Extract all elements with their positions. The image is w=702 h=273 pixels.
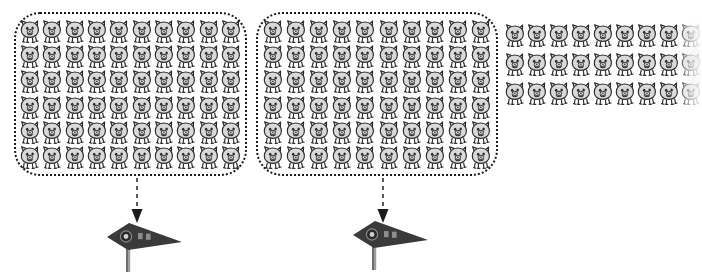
- pig-icon: [308, 19, 330, 43]
- pig-icon: [636, 23, 658, 47]
- pig-icon: [592, 23, 614, 47]
- pig-icon: [175, 69, 197, 93]
- pig-icon: [86, 19, 108, 43]
- pig-icon: [614, 81, 636, 105]
- pig-icon: [220, 145, 242, 169]
- pig-icon: [64, 19, 86, 43]
- pig-icon: [41, 19, 63, 43]
- pig-icon: [504, 52, 526, 76]
- pig-icon: [153, 44, 175, 68]
- pig-icon: [447, 69, 469, 93]
- pig-icon: [636, 52, 658, 76]
- pig-icon: [108, 95, 130, 119]
- pig-icon: [308, 145, 330, 169]
- pig-icon: [680, 81, 702, 105]
- pig-icon: [262, 120, 284, 144]
- pig-icon: [447, 145, 469, 169]
- pig-icon: [658, 23, 680, 47]
- pig-icon: [424, 19, 446, 43]
- pig-icon: [354, 145, 376, 169]
- pig-icon: [354, 19, 376, 43]
- pig-icon: [131, 44, 153, 68]
- pig-icon: [153, 95, 175, 119]
- pig-icon: [131, 69, 153, 93]
- pig-icon: [285, 19, 307, 43]
- pig-icon: [470, 95, 492, 119]
- pig-icon: [153, 69, 175, 93]
- pig-icon: [470, 145, 492, 169]
- pig-icon: [220, 44, 242, 68]
- pig-icon: [401, 69, 423, 93]
- pig-icon: [354, 95, 376, 119]
- pig-icon: [331, 69, 353, 93]
- pig-icon: [198, 95, 220, 119]
- pig-icon: [285, 120, 307, 144]
- pig-icon: [64, 69, 86, 93]
- pig-icon: [378, 44, 400, 68]
- pig-icon: [308, 120, 330, 144]
- pig-icon: [262, 19, 284, 43]
- pig-icon: [86, 69, 108, 93]
- pig-icon: [470, 69, 492, 93]
- pig-icon: [285, 69, 307, 93]
- pig-icon: [175, 120, 197, 144]
- pig-icon: [19, 95, 41, 119]
- dashed-arrow-down-icon-1: [130, 178, 144, 224]
- pig-icon: [401, 44, 423, 68]
- pig-icon: [470, 44, 492, 68]
- pig-icon: [108, 44, 130, 68]
- pig-icon: [285, 44, 307, 68]
- pig-icon: [401, 19, 423, 43]
- pig-icon: [401, 145, 423, 169]
- pig-icon: [504, 23, 526, 47]
- pig-icon: [19, 44, 41, 68]
- pig-icon: [64, 95, 86, 119]
- circle-badge-icon: [120, 231, 131, 242]
- pig-icon: [86, 145, 108, 169]
- pig-icon: [198, 69, 220, 93]
- pig-icon: [424, 95, 446, 119]
- pig-icon: [108, 120, 130, 144]
- pig-icon: [153, 19, 175, 43]
- pig-icon: [108, 145, 130, 169]
- pig-icon: [614, 23, 636, 47]
- pig-icon: [592, 52, 614, 76]
- pig-icon: [41, 44, 63, 68]
- pig-icon: [331, 95, 353, 119]
- pig-icon: [41, 69, 63, 93]
- pig-icon: [198, 145, 220, 169]
- pig-icon: [331, 120, 353, 144]
- pig-icon: [19, 145, 41, 169]
- pig-icon: [526, 52, 548, 76]
- pig-icon: [636, 81, 658, 105]
- pig-icon: [658, 52, 680, 76]
- pig-icon: [504, 81, 526, 105]
- icon-grid-remainder: [504, 20, 702, 108]
- pig-icon: [331, 44, 353, 68]
- pig-icon: [64, 145, 86, 169]
- pig-icon: [526, 23, 548, 47]
- pig-icon: [447, 120, 469, 144]
- pennant-flag-marker-2[interactable]: 方块: [348, 218, 434, 270]
- pig-icon: [548, 52, 570, 76]
- pig-icon: [131, 19, 153, 43]
- pig-icon: [198, 44, 220, 68]
- pig-icon: [285, 95, 307, 119]
- icon-grid-group-2: [261, 18, 493, 170]
- pig-icon: [262, 95, 284, 119]
- pig-icon: [680, 52, 702, 76]
- pig-icon: [175, 19, 197, 43]
- pig-icon: [354, 44, 376, 68]
- pig-icon: [64, 44, 86, 68]
- pig-icon: [86, 120, 108, 144]
- pig-icon: [470, 120, 492, 144]
- pig-icon: [592, 81, 614, 105]
- pig-icon: [41, 120, 63, 144]
- pig-icon: [447, 44, 469, 68]
- pig-icon: [424, 69, 446, 93]
- pennant-flag-marker-1[interactable]: 方块: [102, 220, 188, 272]
- pig-icon: [570, 23, 592, 47]
- pig-icon: [86, 95, 108, 119]
- pig-icon: [526, 81, 548, 105]
- pig-icon: [424, 145, 446, 169]
